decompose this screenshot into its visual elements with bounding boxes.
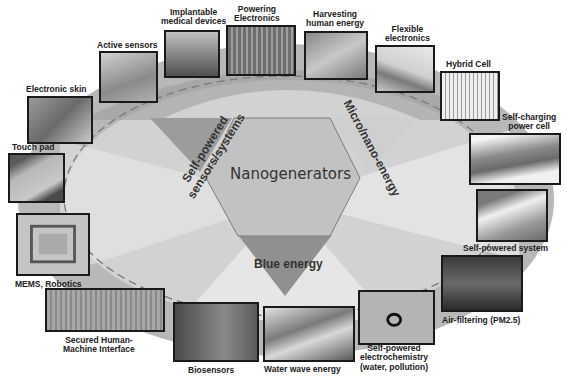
label-active-sensors: Active sensors <box>97 41 157 50</box>
label-line: Electronics <box>234 14 280 23</box>
photo-implantable-medical-devices <box>164 30 220 78</box>
photo-secured-hmi <box>45 288 165 332</box>
photo-flexible-electronics <box>375 45 435 93</box>
label-self-powered-system: Self-powered system <box>463 244 548 253</box>
photo-electronic-skin <box>27 96 93 144</box>
label-mems-robotics: MEMS, Robotics <box>15 280 82 289</box>
theme-blue-energy: Blue energy <box>254 258 323 271</box>
label-hybrid-cell: Hybrid Cell <box>446 60 491 69</box>
photo-mems-robotics <box>16 213 90 276</box>
label-biosensors: Biosensors <box>188 366 234 375</box>
label-air-filtering: Air-filtering (PM2.5) <box>442 316 520 325</box>
photo-biosensors <box>173 302 259 362</box>
label-touch-pad: Touch pad <box>12 143 54 152</box>
label-flexible-electronics: Flexible electronics <box>385 25 430 44</box>
label-self-powered-electrochemistry: Self-powered electrochemistry (water, po… <box>360 344 428 372</box>
photo-air-filtering <box>441 255 523 312</box>
nanogenerator-diagram: Nanogenerators Self-powered sensors/syst… <box>0 0 567 382</box>
photo-self-powered-electrochemistry <box>358 290 435 345</box>
photo-harvesting-human-energy <box>304 31 368 80</box>
photo-self-powered-system <box>476 189 548 242</box>
photo-hybrid-cell <box>440 71 500 121</box>
label-powering-electronics: Powering Electronics <box>234 5 280 24</box>
label-line: electronics <box>385 34 430 43</box>
photo-powering-electronics <box>226 25 296 76</box>
label-self-charging-power-cell: Self-charging power cell <box>502 113 556 132</box>
label-line: (water, pollution) <box>360 363 428 372</box>
label-line: Machine Interface <box>63 345 135 354</box>
center-title: Nanogenerators <box>230 165 351 183</box>
label-harvesting-human-energy: Harvesting human energy <box>306 10 364 29</box>
photo-active-sensors <box>99 51 158 103</box>
label-line: power cell <box>502 122 556 131</box>
label-water-wave-energy: Water wave energy <box>264 365 341 374</box>
label-electronic-skin: Electronic skin <box>26 85 86 94</box>
label-secured-hmi: Secured Human- Machine Interface <box>63 336 135 355</box>
photo-touch-pad <box>8 153 65 203</box>
ring-icon <box>360 292 433 343</box>
photo-water-wave-energy <box>263 306 355 362</box>
photo-self-charging-power-cell <box>469 133 561 185</box>
label-line: human energy <box>306 19 364 28</box>
label-implantable-medical-devices: Implantable medical devices <box>161 8 226 27</box>
chip-icon <box>18 215 88 274</box>
label-line: medical devices <box>161 17 226 26</box>
